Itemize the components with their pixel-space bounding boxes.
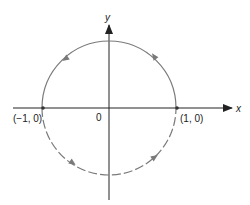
unit-circle-diagram: x y 0 (−1, 0) (1, 0) — [0, 0, 250, 205]
direction-arrow-lower-left — [68, 159, 77, 168]
x-axis-label: x — [235, 103, 242, 114]
point-right — [175, 106, 179, 110]
point-left — [41, 106, 45, 110]
point-right-label: (1, 0) — [180, 113, 203, 124]
y-axis-label: y — [104, 12, 111, 23]
point-left-label: (−1, 0) — [13, 113, 42, 124]
direction-arrow-upper-left — [61, 55, 70, 64]
origin-label: 0 — [96, 112, 102, 123]
